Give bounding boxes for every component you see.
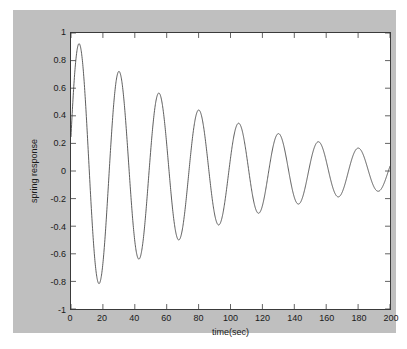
y-tick-label: -0.8 [50, 278, 66, 287]
x-tick-label: 40 [129, 314, 139, 323]
axis-ticks [71, 33, 390, 309]
y-axis-label: spring response [29, 139, 39, 203]
x-tick-label: 160 [319, 314, 334, 323]
y-tick-label: 0.6 [53, 83, 66, 92]
y-tick-label: -0.2 [50, 194, 66, 203]
series-line-spring-response [71, 44, 390, 284]
y-tick-label: 1 [61, 28, 66, 37]
y-tick-label: -0.4 [50, 222, 66, 231]
x-tick-label: 0 [67, 314, 72, 323]
y-tick-label: 0.2 [53, 139, 66, 148]
x-tick-label: 140 [287, 314, 302, 323]
x-tick-label: 100 [223, 314, 238, 323]
plot-axes-box [70, 32, 391, 310]
x-tick-label: 200 [383, 314, 398, 323]
plot-line-chart [71, 33, 390, 309]
figure-canvas: -1-0.8-0.6-0.4-0.200.20.40.60.81 0204060… [13, 10, 396, 333]
y-tick-label: -0.6 [50, 250, 66, 259]
x-tick-label: 80 [193, 314, 203, 323]
y-axis-label-wrap: spring response [27, 32, 41, 310]
y-tick-label: -1 [58, 306, 66, 315]
y-tick-label: 0 [61, 167, 66, 176]
x-tick-label: 180 [351, 314, 366, 323]
figure-root: -1-0.8-0.6-0.4-0.200.20.40.60.81 0204060… [0, 0, 407, 349]
x-axis-label: time(sec) [70, 327, 391, 337]
y-tick-label: 0.4 [53, 111, 66, 120]
y-axis-tick-labels: -1-0.8-0.6-0.4-0.200.20.40.60.81 [41, 32, 66, 310]
x-tick-label: 20 [97, 314, 107, 323]
x-tick-label: 120 [255, 314, 270, 323]
y-tick-label: 0.8 [53, 55, 66, 64]
x-tick-label: 60 [161, 314, 171, 323]
x-axis-tick-labels: 020406080100120140160180200 [70, 314, 391, 328]
